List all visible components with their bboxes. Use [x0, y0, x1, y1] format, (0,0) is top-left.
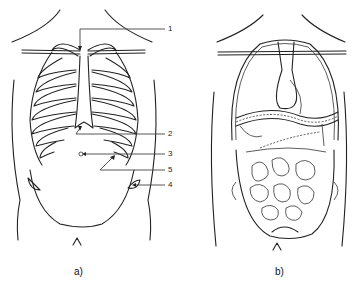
label-1: 1	[168, 25, 172, 33]
panel-a-figure	[12, 10, 156, 245]
caption-panel-b: b)	[275, 266, 284, 277]
label-3: 3	[168, 150, 172, 158]
label-2: 2	[168, 130, 172, 138]
label-4: 4	[168, 181, 172, 189]
caption-panel-a: a)	[74, 266, 83, 277]
label-5: 5	[168, 166, 172, 174]
panel-b-figure	[211, 15, 346, 250]
anatomy-diagram	[0, 0, 359, 290]
